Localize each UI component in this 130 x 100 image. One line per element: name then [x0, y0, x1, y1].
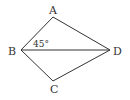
label-a: A	[48, 4, 58, 17]
label-b: B	[8, 45, 16, 58]
kite-diagram: A B C D 45°	[0, 0, 130, 100]
segment-cd	[53, 50, 110, 81]
angle-label-45: 45°	[33, 39, 49, 49]
label-c: C	[50, 83, 58, 96]
segment-bc	[21, 50, 53, 81]
segment-ad	[53, 17, 110, 50]
label-d: D	[113, 45, 122, 58]
